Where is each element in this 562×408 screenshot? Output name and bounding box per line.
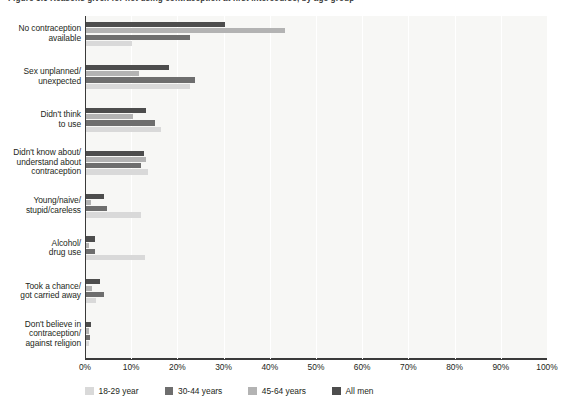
category-label: Alcohol/drug use [0, 239, 81, 258]
x-tick-label: 100% [527, 362, 562, 372]
category-label-line: available [0, 34, 81, 44]
bar [86, 212, 141, 217]
bar [86, 77, 195, 82]
bar [86, 151, 144, 156]
bar [86, 35, 190, 40]
category-label: Young/naive/stupid/careless [0, 196, 81, 215]
bar [86, 120, 155, 125]
bar [86, 194, 104, 199]
legend-swatch-icon [332, 387, 341, 396]
category-label-line: drug use [0, 248, 81, 258]
category-label-line: contraception [0, 167, 81, 177]
legend-label: 45-64 years [262, 386, 306, 396]
category-label-line: to use [0, 120, 81, 130]
x-tick-label: 0% [65, 362, 105, 372]
category-row: Took a chance/got carried away [0, 273, 555, 316]
category-label-line: unexpected [0, 77, 81, 87]
category-row: Alcohol/drug use [0, 230, 555, 273]
category-label: Didn't thinkto use [0, 110, 81, 129]
bar [86, 335, 90, 340]
x-tick-label: 90% [481, 362, 521, 372]
bar [86, 243, 89, 248]
bar [86, 328, 89, 333]
bar-group [86, 194, 141, 219]
x-tick-label: 30% [204, 362, 244, 372]
bar-group [86, 279, 104, 304]
bar-group [86, 108, 161, 133]
category-row: No contraceptionavailable [0, 16, 555, 59]
bar-group [86, 236, 145, 261]
bar [86, 41, 132, 46]
legend-item[interactable]: All men [332, 386, 373, 396]
bar-group [86, 22, 285, 47]
bar [86, 169, 148, 174]
legend-swatch-icon [85, 387, 94, 396]
bar [86, 71, 139, 76]
bar [86, 114, 133, 119]
bar [86, 84, 190, 89]
category-label-line: against religion [0, 339, 81, 349]
legend-item[interactable]: 18-29 year [85, 386, 139, 396]
chart-title: Figure 3.6 Reasons given for not using c… [8, 0, 548, 4]
bar [86, 322, 91, 327]
category-row: Didn't know about/understand aboutcontra… [0, 145, 555, 188]
legend-item[interactable]: 45-64 years [248, 386, 306, 396]
category-row: Young/naive/stupid/careless [0, 188, 555, 231]
bar-group [86, 322, 91, 347]
x-tick-label: 50% [296, 362, 336, 372]
bar [86, 65, 169, 70]
chart-legend: 18-29 year30-44 years45-64 yearsAll men [85, 386, 399, 396]
bar [86, 341, 89, 346]
category-row: Don't believe incontraception/against re… [0, 316, 555, 359]
category-label: Didn't know about/understand aboutcontra… [0, 148, 81, 177]
category-row: Didn't thinkto use [0, 102, 555, 145]
bar [86, 28, 285, 33]
bar [86, 298, 96, 303]
bar [86, 163, 141, 168]
legend-label: All men [346, 386, 374, 396]
x-tick-label: 20% [157, 362, 197, 372]
legend-swatch-icon [248, 387, 257, 396]
legend-swatch-icon [165, 387, 174, 396]
bar [86, 200, 91, 205]
bar [86, 22, 225, 27]
x-tick-label: 10% [111, 362, 151, 372]
category-label: Sex unplanned/unexpected [0, 67, 81, 86]
category-label: Don't believe incontraception/against re… [0, 320, 81, 349]
bar [86, 206, 107, 211]
bar-group [86, 151, 148, 176]
bar [86, 249, 95, 254]
category-label-line: got carried away [0, 291, 81, 301]
category-row: Sex unplanned/unexpected [0, 59, 555, 102]
bar [86, 127, 161, 132]
bar [86, 255, 145, 260]
bar-group [86, 65, 195, 90]
bar [86, 292, 104, 297]
bar [86, 286, 92, 291]
x-tick-label: 60% [342, 362, 382, 372]
bar [86, 108, 146, 113]
bar [86, 236, 95, 241]
category-label-line: stupid/careless [0, 206, 81, 216]
category-label: Took a chance/got carried away [0, 282, 81, 301]
legend-label: 30-44 years [178, 386, 222, 396]
category-label: No contraceptionavailable [0, 24, 81, 43]
legend-label: 18-29 year [99, 386, 139, 396]
x-tick-label: 40% [250, 362, 290, 372]
bar [86, 279, 100, 284]
legend-item[interactable]: 30-44 years [165, 386, 223, 396]
x-tick-label: 70% [388, 362, 428, 372]
x-tick-label: 80% [435, 362, 475, 372]
bar [86, 157, 146, 162]
